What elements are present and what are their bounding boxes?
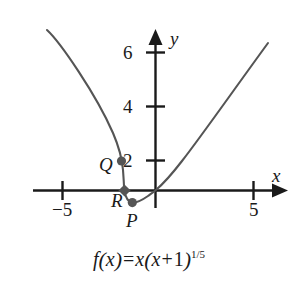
x-axis-label: x — [272, 166, 280, 185]
formula-var-3: x — [152, 248, 161, 270]
y-axis-label: y — [170, 29, 178, 48]
x-axis — [33, 181, 288, 200]
formula-equals: = — [123, 248, 134, 270]
point-label-P: P — [126, 211, 138, 230]
function-formula: f(x)=x(x+1)1/5 — [0, 246, 298, 272]
formula-one: 1 — [174, 248, 184, 270]
x-tick-label-5: 5 — [249, 200, 259, 219]
y-tick-label-6: 6 — [123, 43, 133, 62]
formula-var-1: x — [106, 248, 115, 270]
point-marker-P — [128, 198, 137, 207]
x-tick-label-neg5: −5 — [52, 200, 72, 219]
formula-exponent: 1/5 — [191, 248, 205, 260]
curve-right-branch — [124, 43, 268, 203]
y-tick-label-2: 2 — [123, 151, 133, 170]
point-label-Q: Q — [99, 155, 113, 174]
formula-exponent-denominator: 5 — [200, 248, 206, 260]
formula-close-paren-1: ) — [115, 247, 122, 272]
point-label-R: R — [111, 191, 123, 210]
formula-close-paren-2: ) — [184, 247, 191, 272]
formula-open-paren-2: ( — [144, 247, 151, 272]
formula-plus: + — [161, 248, 172, 270]
y-tick-label-4: 4 — [123, 97, 133, 116]
y-axis — [146, 29, 165, 208]
function-graph-figure: 6 4 2 −5 5 y x Q R P f(x)=x(x+1)1/5 — [0, 0, 298, 296]
formula-var-2: x — [135, 248, 144, 270]
formula-open-paren-1: ( — [98, 247, 105, 272]
